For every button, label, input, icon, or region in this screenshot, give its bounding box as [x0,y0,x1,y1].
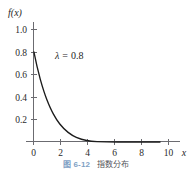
y-tick-label-1.0: 1.0 [15,25,27,35]
lambda-annotation: λ=0.8 [54,50,83,61]
x-tick-label-6: 6 [112,148,117,158]
y-tick-label-0.6: 0.6 [15,70,27,80]
x-axis-label: x [181,147,187,158]
figure-container: 1.0 0.8 0.6 0.4 0.2 0 2 4 6 8 10 f(x) x … [0,0,192,174]
y-tick-label-0.2: 0.2 [15,115,27,125]
exponential-distribution-chart: 1.0 0.8 0.6 0.4 0.2 0 2 4 6 8 10 f(x) x … [0,0,192,160]
x-tick-label-2: 2 [58,148,63,158]
x-tick-label-4: 4 [85,148,90,158]
y-tick-label-0.8: 0.8 [15,48,27,58]
y-tick-label-0.4: 0.4 [15,93,27,103]
x-tick-label-0: 0 [31,148,36,158]
x-tick-label-10: 10 [164,148,174,158]
caption-title: 指数分布 [97,160,129,169]
exponential-curve [34,52,160,142]
x-tick-label-8: 8 [139,148,144,158]
caption-number: 图 6-12 [63,160,90,169]
figure-caption: 图 6-12 指数分布 [0,160,192,174]
y-axis-label: f(x) [8,7,23,19]
